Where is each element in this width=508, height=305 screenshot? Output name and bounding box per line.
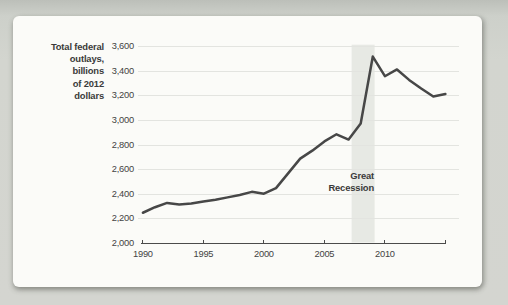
y-tick-label: 3,600 xyxy=(93,41,134,52)
x-tick-label: 2010 xyxy=(368,249,402,259)
y-tick-label: 2,600 xyxy=(93,164,134,175)
y-tick-label: 3,400 xyxy=(93,66,134,77)
x-tick-label: 2000 xyxy=(247,249,281,259)
recession-band xyxy=(352,45,375,243)
y-tick-label: 2,000 xyxy=(93,238,134,249)
y-tick-label: 2,200 xyxy=(93,213,134,224)
page-background: Total federal outlays, billions of 2012 … xyxy=(0,0,508,305)
x-tick-label: 2005 xyxy=(307,249,341,259)
federal-outlays-line xyxy=(143,57,446,213)
x-tick-label: 1990 xyxy=(126,249,160,259)
y-tick-label: 2,800 xyxy=(93,140,134,151)
y-tick-label: 3,000 xyxy=(93,115,134,126)
x-tick-label: 1995 xyxy=(186,249,220,259)
y-tick-label: 2,400 xyxy=(93,189,134,200)
recession-annotation: Great Recession xyxy=(298,170,374,195)
y-tick-label: 3,200 xyxy=(93,90,134,101)
